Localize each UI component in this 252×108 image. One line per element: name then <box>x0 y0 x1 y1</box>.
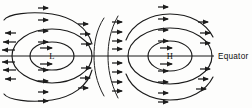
col-arc-group <box>94 16 118 98</box>
wind-arrow <box>160 62 173 67</box>
wind-arrow <box>112 61 123 66</box>
wind-arrow <box>112 70 123 75</box>
wind-arrow <box>38 40 49 45</box>
wind-arrow <box>158 5 169 10</box>
wind-arrow <box>3 68 16 73</box>
wind-arrow <box>158 17 169 22</box>
wind-arrow <box>81 42 92 47</box>
high-pressure-center-label: H <box>167 51 173 61</box>
wind-arrow <box>158 91 169 96</box>
wind-arrow <box>5 77 16 82</box>
wind-arrow <box>112 80 123 85</box>
wind-arrow <box>112 30 123 35</box>
diagram-canvas: L H Equator <box>0 0 252 108</box>
high-isobar-outer-lower <box>126 74 213 100</box>
wind-arrow <box>112 47 123 52</box>
wind-arrow <box>160 46 173 51</box>
wind-arrow <box>40 46 53 51</box>
wind-arrow <box>200 67 211 72</box>
col-arc-right <box>108 16 118 98</box>
wind-arrow <box>38 90 49 95</box>
wind-arrow <box>112 20 123 25</box>
wind-arrow <box>81 66 92 71</box>
col-arc-left <box>94 18 104 96</box>
wind-arrow <box>80 32 91 37</box>
wind-arrow <box>38 6 49 11</box>
wind-arrow <box>78 86 89 91</box>
wind-arrow <box>38 18 49 23</box>
low-pressure-center-label: L <box>49 51 55 61</box>
wind-arrow <box>198 77 209 82</box>
wind-arrow <box>38 68 49 73</box>
wind-arrow <box>200 41 211 46</box>
wind-arrow <box>40 62 53 67</box>
wind-arrow <box>3 40 16 45</box>
wind-arrow <box>198 20 209 25</box>
wind-arrow <box>112 39 123 44</box>
wind-arrow <box>5 31 16 36</box>
low-isobar-outer <box>4 70 92 101</box>
wind-arrow-group <box>2 5 211 105</box>
wind-arrow <box>38 99 49 104</box>
pressure-system-diagram: L H Equator <box>0 0 252 108</box>
low-isobar-outer-upper <box>4 13 92 44</box>
equator-label: Equator <box>218 52 248 61</box>
